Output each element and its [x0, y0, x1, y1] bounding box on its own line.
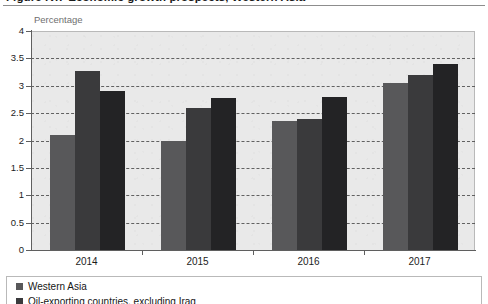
bar: [75, 71, 100, 250]
x-tick-mark: [253, 250, 254, 255]
y-axis-title: Percentage: [34, 14, 83, 25]
x-tick-mark: [364, 250, 365, 255]
y-tick-label: 4: [0, 25, 24, 36]
x-axis-group-label: 2015: [142, 256, 253, 267]
title-divider-rule: [3, 5, 485, 6]
bar: [297, 119, 322, 250]
y-tick-label: 3.5: [0, 52, 24, 63]
bar: [383, 83, 408, 250]
y-tick-label: 0: [0, 244, 24, 255]
legend-item[interactable]: Oil-exporting countries, excluding Iraq: [16, 294, 481, 304]
bar: [272, 121, 297, 250]
legend-item-label: Western Asia: [28, 281, 87, 292]
bar: [100, 91, 125, 250]
chart-page: Figure IV.7 Economic growth prospects, W…: [0, 0, 488, 304]
legend-swatch-icon: [16, 298, 23, 304]
bar: [211, 98, 236, 250]
y-tick-label: 1: [0, 189, 24, 200]
bar: [433, 64, 458, 250]
x-tick-mark: [142, 250, 143, 255]
legend-item-label: Oil-exporting countries, excluding Iraq: [28, 296, 196, 304]
y-tick-label: 2.5: [0, 107, 24, 118]
x-axis-group-label: 2014: [31, 256, 142, 267]
bar-series-container: [32, 31, 475, 250]
y-tick-label: 2: [0, 135, 24, 146]
y-tick-label: 1.5: [0, 162, 24, 173]
bar: [186, 108, 211, 250]
bar: [161, 141, 186, 251]
legend-swatch-icon: [16, 283, 23, 290]
legend-item[interactable]: Western Asia: [16, 279, 481, 294]
x-axis-group-label: 2017: [364, 256, 475, 267]
x-axis-group-label: 2016: [253, 256, 364, 267]
figure-title-text: Figure IV.7 Economic growth prospects, W…: [0, 0, 488, 3]
bar: [322, 97, 347, 250]
y-tick-label: 0.5: [0, 217, 24, 228]
chart-legend: Western AsiaOil-exporting countries, exc…: [6, 276, 482, 304]
bar: [50, 135, 75, 250]
y-tick-label: 3: [0, 80, 24, 91]
bar: [408, 75, 433, 250]
